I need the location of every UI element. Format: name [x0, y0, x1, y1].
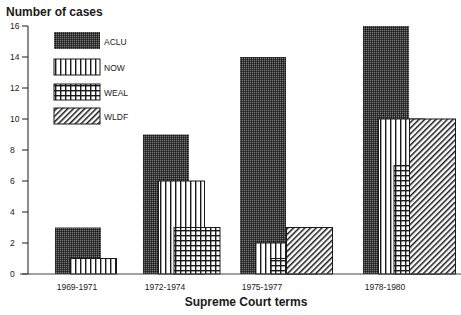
y-axis-title: Number of cases [6, 5, 103, 19]
y-tick-label: 8 [10, 145, 15, 155]
y-tick-label: 10 [10, 114, 20, 124]
bar-wldf [410, 119, 456, 274]
x-axis: 1969-19711972-19741975-19771978-1980 [20, 274, 461, 292]
bar-group [363, 26, 456, 274]
bar-group [55, 228, 117, 275]
y-tick-label: 2 [10, 238, 15, 248]
legend-label: ACLU [104, 37, 127, 47]
y-tick-label: 6 [10, 176, 15, 186]
chart: Number of cases 0246810121416 1969-19711… [0, 0, 461, 315]
bar-weal [174, 228, 220, 275]
legend-swatch-now [54, 59, 100, 75]
y-tick-label: 0 [10, 269, 15, 279]
bar-group [240, 57, 333, 274]
bar-wldf [287, 228, 333, 275]
legend-item: WLDF [54, 108, 128, 124]
bar-group [143, 135, 220, 275]
y-tick-label: 4 [10, 207, 15, 217]
legend-swatch-wldf [54, 108, 100, 124]
bar-now [71, 259, 117, 275]
legend-label: NOW [104, 63, 125, 73]
bar-aclu [240, 57, 286, 274]
y-tick-label: 16 [10, 21, 20, 31]
y-tick-label: 12 [10, 83, 20, 93]
legend: ACLUNOWWEALWLDF [54, 32, 128, 124]
legend-label: WEAL [104, 88, 128, 98]
x-tick-label: 1978-1980 [365, 282, 406, 292]
legend-item: WEAL [54, 84, 128, 100]
x-tick-label: 1969-1971 [57, 282, 98, 292]
legend-swatch-aclu [54, 32, 100, 49]
y-axis: 0246810121416 [10, 21, 28, 279]
x-axis-title: Supreme Court terms [185, 295, 308, 309]
x-tick-label: 1975-1977 [242, 282, 283, 292]
y-tick-label: 14 [10, 52, 20, 62]
legend-label: WLDF [104, 112, 128, 122]
legend-swatch-weal [54, 84, 100, 100]
legend-item: ACLU [54, 32, 127, 49]
legend-item: NOW [54, 59, 125, 75]
x-tick-label: 1972-1974 [145, 282, 186, 292]
